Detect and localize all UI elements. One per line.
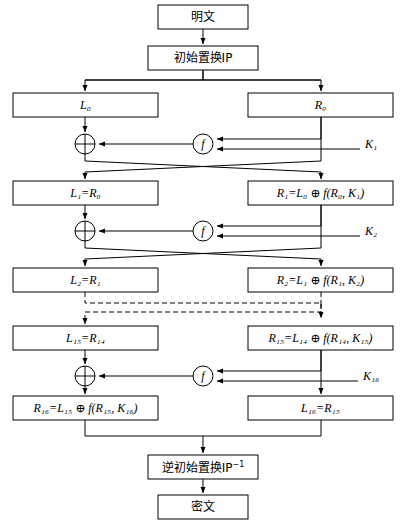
wire-merge-bus (85, 420, 321, 436)
box-L2 (13, 268, 158, 292)
initial-permutation-box (148, 46, 258, 70)
box-L16 (248, 396, 393, 420)
f-node-3 (193, 366, 213, 386)
f-node-1 (193, 134, 213, 154)
box-L0 (13, 93, 158, 117)
diagram-canvas (0, 0, 406, 525)
box-R2 (248, 268, 393, 292)
wire-dashed-R2-to-L15 (85, 303, 321, 324)
inverse-permutation-box (148, 455, 258, 479)
box-R1 (248, 181, 393, 205)
box-R15 (248, 326, 393, 350)
box-R16 (13, 396, 158, 420)
wire-dashed-L2-to-R15 (85, 292, 321, 318)
box-R0 (248, 93, 393, 117)
f-node-2 (193, 221, 213, 241)
wire-R0-to-f1 (217, 117, 321, 139)
box-L15 (13, 326, 158, 350)
des-flowchart-figure: 明文 初始置换IP L₀ R₀ f K₁ L₁=R₀ R₁=L₀ ⊕ f(R₀,… (0, 0, 406, 525)
plaintext-box (158, 5, 248, 29)
wire-R1-to-f2 (217, 205, 321, 226)
ciphertext-box (158, 495, 248, 519)
wire-R15-to-f3 (217, 350, 321, 371)
box-L1 (13, 181, 158, 205)
